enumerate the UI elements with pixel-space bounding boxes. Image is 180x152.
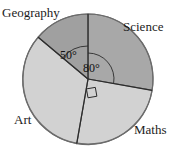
angle-label-geography: 50°: [60, 49, 77, 61]
pie-label-maths: Maths: [134, 123, 167, 136]
pie-label-science: Science: [123, 20, 163, 33]
angle-label-science: 80°: [83, 62, 100, 74]
pie-label-art: Art: [14, 113, 31, 126]
pie-label-geography: Geography: [2, 6, 60, 19]
pie-chart-figure: Geography Science Art Maths 50° 80°: [0, 0, 180, 152]
